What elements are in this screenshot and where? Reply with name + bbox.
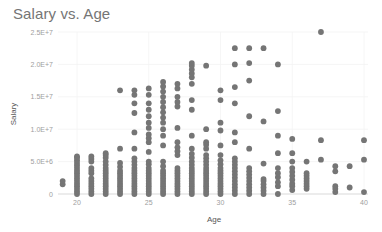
x-tick-label: 40 — [360, 199, 368, 206]
data-point — [318, 137, 324, 143]
data-point — [246, 146, 252, 152]
data-point — [218, 152, 224, 158]
data-point — [232, 100, 238, 106]
data-point — [175, 144, 181, 150]
y-tick-label: 2.5E+7 — [31, 29, 53, 36]
x-axis-label: Age — [207, 215, 222, 224]
data-point — [146, 100, 152, 106]
data-point — [146, 92, 152, 98]
data-point — [189, 60, 195, 66]
data-point — [160, 94, 166, 100]
data-point — [175, 125, 181, 131]
data-point — [203, 126, 209, 132]
data-point — [117, 146, 123, 152]
data-point — [175, 139, 181, 145]
data-point — [160, 133, 166, 139]
data-point — [275, 108, 281, 114]
data-point — [88, 154, 94, 160]
data-point — [261, 119, 267, 125]
data-point — [261, 45, 267, 51]
data-point — [132, 110, 138, 116]
data-point — [246, 60, 252, 66]
data-point — [146, 131, 152, 137]
data-point — [132, 146, 138, 152]
data-point — [218, 120, 224, 126]
data-point — [289, 159, 295, 165]
y-tick-label: 1.0E+7 — [31, 126, 53, 133]
y-tick-label: 5.0E+6 — [31, 158, 53, 165]
scatter-plot: 05.0E+61.0E+71.5E+72.0E+72.5E+7 20253035… — [0, 0, 382, 232]
data-point — [132, 130, 138, 136]
data-point — [318, 29, 324, 35]
data-point — [304, 159, 310, 165]
data-point — [275, 170, 281, 176]
data-point — [275, 62, 281, 68]
data-point — [175, 94, 181, 100]
y-tick-label: 1.5E+7 — [31, 93, 53, 100]
data-point — [160, 99, 166, 105]
x-tick-label: 30 — [217, 199, 225, 206]
data-point — [275, 150, 281, 156]
data-point — [218, 128, 224, 134]
data-point — [232, 130, 238, 136]
data-point — [232, 45, 238, 51]
data-point — [189, 81, 195, 87]
y-axis-ticks: 05.0E+61.0E+71.5E+72.0E+72.5E+7 — [31, 29, 53, 198]
data-point — [332, 183, 338, 189]
data-point — [160, 126, 166, 132]
data-point — [117, 87, 123, 93]
data-point — [361, 137, 367, 143]
data-point — [74, 154, 80, 160]
data-point — [160, 109, 166, 115]
data-point — [218, 97, 224, 103]
data-point — [160, 89, 166, 95]
data-point — [289, 150, 295, 156]
data-point — [117, 160, 123, 166]
data-point — [261, 176, 267, 182]
y-tick-label: 2.0E+7 — [31, 61, 53, 68]
data-point — [160, 104, 166, 110]
data-point — [132, 87, 138, 93]
data-point — [160, 159, 166, 165]
data-point — [203, 63, 209, 69]
data-point — [189, 107, 195, 113]
data-point — [146, 85, 152, 91]
y-tick-label: 0 — [49, 191, 53, 198]
data-point — [160, 115, 166, 121]
x-tick-label: 35 — [288, 199, 296, 206]
data-point — [189, 97, 195, 103]
data-point — [160, 79, 166, 85]
data-point — [218, 87, 224, 93]
data-point — [146, 120, 152, 126]
data-point — [289, 165, 295, 171]
data-point — [103, 150, 109, 156]
data-point — [232, 139, 238, 145]
data-point — [146, 149, 152, 155]
data-point — [160, 120, 166, 126]
data-point — [332, 163, 338, 169]
x-axis-ticks: 2025303540 — [73, 199, 368, 206]
data-point — [275, 191, 281, 197]
data-point — [232, 62, 238, 68]
data-point — [246, 78, 252, 84]
data-point — [275, 133, 281, 139]
data-point — [189, 151, 195, 157]
x-tick-label: 25 — [145, 199, 153, 206]
data-point — [146, 113, 152, 119]
data-point — [203, 139, 209, 145]
data-point — [318, 157, 324, 163]
data-point — [275, 165, 281, 171]
data-point — [175, 81, 181, 87]
data-point — [232, 84, 238, 90]
x-tick-label: 20 — [73, 199, 81, 206]
data-point — [347, 163, 353, 169]
data-point — [132, 155, 138, 161]
data-points — [60, 29, 367, 197]
data-point — [261, 161, 267, 167]
data-point — [175, 99, 181, 105]
data-point — [347, 185, 353, 191]
data-point — [246, 113, 252, 119]
data-point — [289, 136, 295, 142]
data-point — [60, 178, 66, 184]
data-point — [246, 45, 252, 51]
